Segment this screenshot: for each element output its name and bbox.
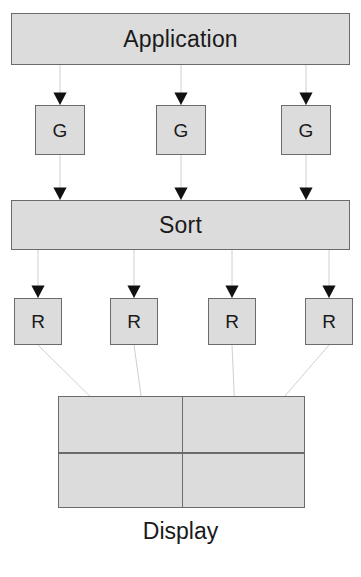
generator-block-2[interactable]: G [156, 105, 206, 155]
display-caption-text: Display [143, 518, 218, 544]
sort-label: Sort [159, 214, 202, 237]
renderer-label-1: R [31, 312, 45, 331]
renderer-label-2: R [127, 312, 141, 331]
diagram-canvas: Application G G G Sort R R R R ◀ ▶ ▼ ▼ D… [0, 0, 361, 577]
sort-block[interactable]: Sort [11, 200, 350, 250]
generator-label-1: G [53, 121, 68, 140]
renderer-block-4[interactable]: R [305, 298, 353, 345]
renderer-label-3: R [225, 312, 239, 331]
display-horizontal-divider [59, 452, 304, 454]
generator-block-3[interactable]: G [281, 105, 331, 155]
generator-label-2: G [174, 121, 189, 140]
renderer-block-3[interactable]: R [208, 298, 256, 345]
generator-block-1[interactable]: G [35, 105, 85, 155]
application-label: Application [123, 28, 238, 51]
application-block[interactable]: Application [11, 13, 350, 65]
renderer-block-1[interactable]: R [14, 298, 62, 345]
renderer-label-4: R [322, 312, 336, 331]
generator-label-3: G [299, 121, 314, 140]
display-wall[interactable] [58, 396, 305, 508]
display-caption: Display [0, 518, 361, 545]
renderer-block-2[interactable]: R [110, 298, 158, 345]
